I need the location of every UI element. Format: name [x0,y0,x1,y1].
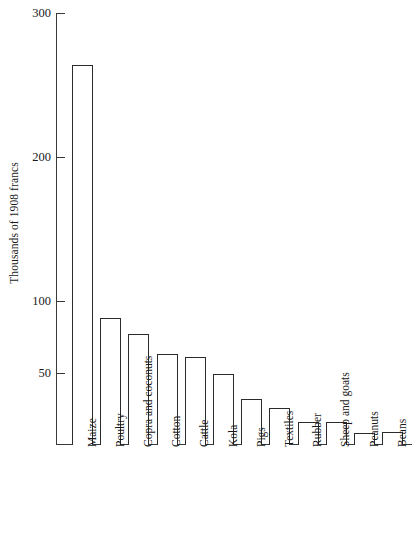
y-tick-label: 300 [32,7,51,20]
bar [72,65,93,445]
y-tick-label: 50 [39,367,52,380]
y-tick-label: 100 [32,295,51,308]
x-axis-label-text: Copra and coconuts [143,356,155,447]
bars-layer [56,13,412,445]
x-axis-label-text: Pigs [256,427,268,447]
bar-chart: Thousands of 1908 francs 50100200300 Mai… [0,0,419,552]
y-axis-title-text: Thousands of 1908 francs [8,162,20,284]
x-axis-label-text: Kola [228,425,240,447]
x-axis-label-text: Cotton [171,416,183,447]
x-axis-label-text: Rubber [312,413,324,447]
x-axis-label-text: Sheep and goats [340,372,352,447]
x-axis-label-text: Textiles [284,411,296,447]
x-axis-category-labels: MaizePoultryCopra and coconutsCottonCatt… [56,447,412,552]
x-axis-label-text: Maize [87,418,99,447]
plot-area: 50100200300 [56,13,412,445]
x-axis-label-text: Poultry [115,413,127,447]
x-axis-label-text: Peanuts [369,411,381,447]
y-axis-title: Thousands of 1908 francs [0,0,28,445]
y-tick-label: 200 [32,151,51,164]
x-axis-label-text: Cattle [199,420,211,447]
x-axis-label-text: Beans [397,419,409,447]
